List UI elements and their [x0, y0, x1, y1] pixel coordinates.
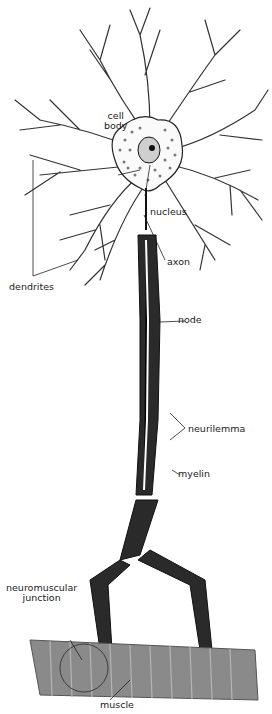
label-axon: axon — [167, 257, 190, 267]
nucleus — [138, 137, 160, 163]
label-cell-body: cell body — [104, 111, 128, 131]
label-myelin: myelin — [178, 469, 210, 479]
label-nucleus: nucleus — [150, 207, 187, 217]
muscle-fiber — [30, 640, 258, 700]
label-neurilemma: neurilemma — [188, 424, 245, 434]
label-muscle: muscle — [100, 700, 134, 710]
label-nmj-line2: junction — [6, 593, 77, 603]
label-cell-line2: body — [104, 121, 128, 131]
label-neuromuscular-junction: neuromuscular junction — [6, 583, 77, 603]
label-node: node — [178, 315, 202, 325]
label-dendrites: dendrites — [9, 282, 54, 292]
neuron-illustration — [0, 0, 272, 714]
